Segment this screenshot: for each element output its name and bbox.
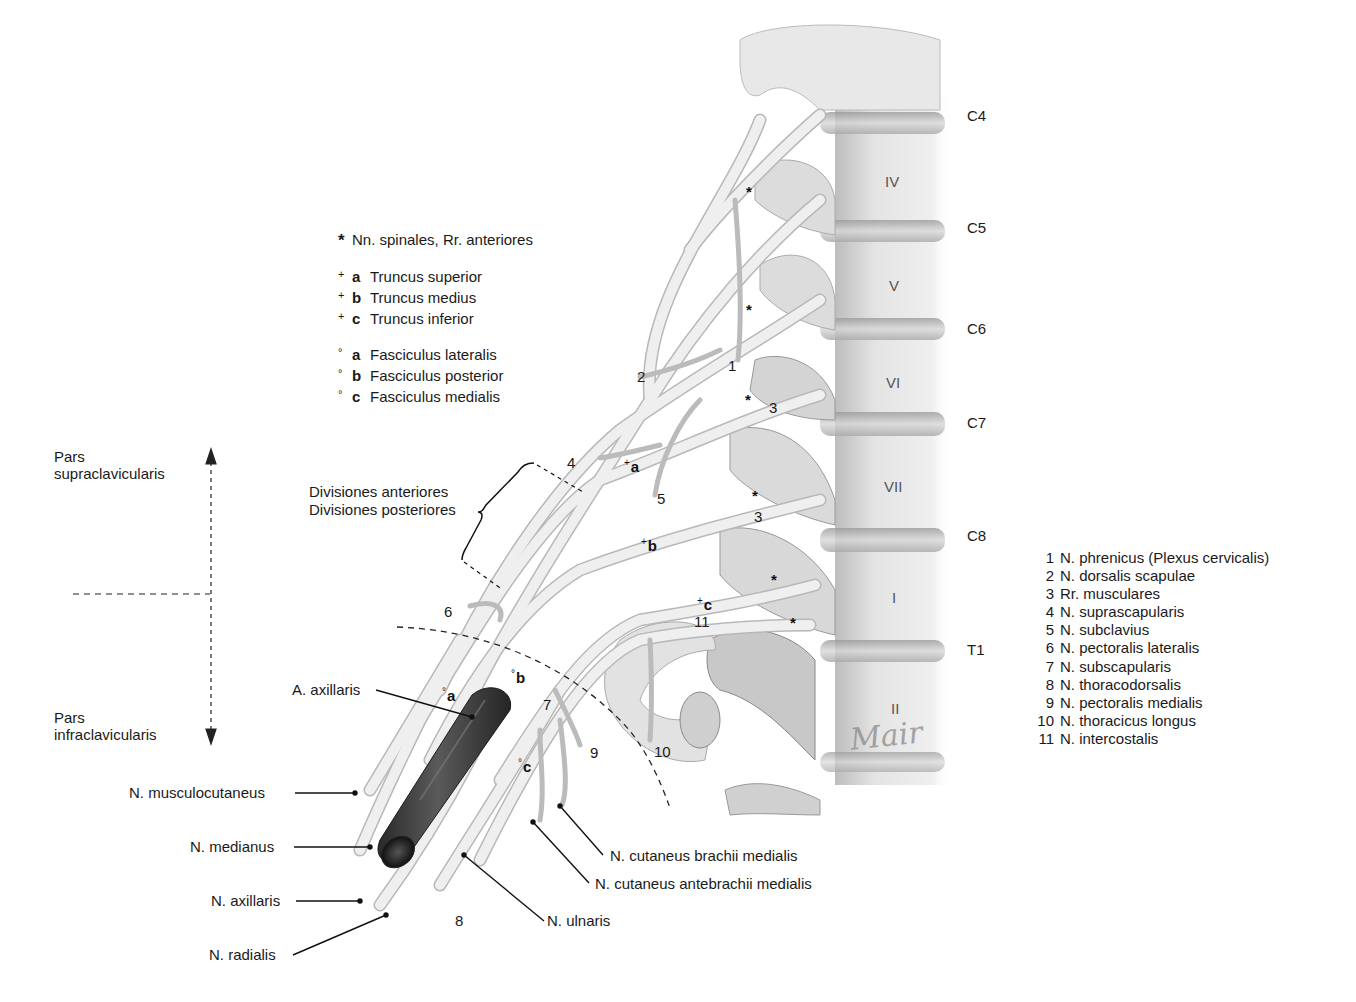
degree-icon: ° — [338, 343, 352, 361]
asterisk-icon: * — [752, 487, 758, 505]
legend-item: 7N. subscapularis — [1034, 658, 1269, 676]
label-n-axillaris: N. axillaris — [211, 892, 280, 910]
vertebra-label: I — [892, 589, 896, 607]
cord-marker-c: °c — [518, 754, 531, 776]
degree-icon: ° — [338, 364, 352, 382]
label-n-medianus: N. medianus — [190, 838, 274, 856]
vertebra-label: II — [891, 700, 899, 718]
legend-trunk-a: +aTruncus superior — [338, 265, 533, 286]
degree-icon: ° — [338, 385, 352, 403]
asterisk-icon: * — [745, 391, 751, 409]
vertebra-label: V — [889, 277, 899, 295]
trunk-marker-b: +b — [641, 533, 657, 555]
legend-trunk-b: +bTruncus medius — [338, 286, 533, 307]
label-a-axillaris: A. axillaris — [292, 681, 360, 699]
asterisk-icon: * — [790, 614, 796, 632]
region-infraclavicular-label: Pars infraclavicularis — [54, 709, 157, 743]
nerve-number-8: 8 — [455, 912, 463, 930]
legend-item: 11N. intercostalis — [1034, 730, 1269, 748]
trunk-marker-c: +c — [697, 592, 712, 614]
nerve-number-5: 5 — [657, 490, 665, 508]
legend-cord-a: °aFasciculus lateralis — [338, 343, 533, 364]
plus-icon: + — [338, 286, 352, 304]
asterisk-icon: * — [771, 571, 777, 589]
nerve-number-4: 4 — [567, 454, 575, 472]
legend-item: 3Rr. musculares — [1034, 585, 1269, 603]
label-n-musculocutaneus: N. musculocutaneus — [129, 784, 265, 802]
vertebral-column — [605, 25, 950, 815]
segment-label-c8: C8 — [967, 527, 986, 545]
legend-item: 5N. subclavius — [1034, 621, 1269, 639]
vertebra-label: VII — [884, 478, 902, 496]
vertebra-label: VI — [886, 374, 900, 392]
legend-item: 9N. pectoralis medialis — [1034, 694, 1269, 712]
legend-item: 8N. thoracodorsalis — [1034, 676, 1269, 694]
trunk-marker-a: +a — [624, 454, 639, 476]
legend-item: 10N. thoracicus longus — [1034, 712, 1269, 730]
legend-item: 6N. pectoralis lateralis — [1034, 639, 1269, 657]
nerve-number-10: 10 — [654, 743, 671, 761]
nerve-number-3: 3 — [769, 399, 777, 417]
asterisk-icon: * — [746, 183, 752, 201]
nerve-number-11: 11 — [694, 613, 710, 631]
numbered-legend: 1N. phrenicus (Plexus cervicalis) 2N. do… — [1034, 549, 1269, 748]
segment-label-t1: T1 — [967, 641, 985, 659]
segment-label-c4: C4 — [967, 107, 986, 125]
nerve-number-6: 6 — [444, 603, 452, 621]
legend-cord-c: °cFasciculus medialis — [338, 385, 533, 406]
region-supraclavicular-label: Pars supraclavicularis — [54, 448, 165, 482]
segment-label-c7: C7 — [967, 414, 986, 432]
segment-label-c6: C6 — [967, 320, 986, 338]
legend-item: 2N. dorsalis scapulae — [1034, 567, 1269, 585]
symbol-legend: *Nn. spinales, Rr. anteriores +aTruncus … — [338, 231, 533, 406]
nerve-number-1: 1 — [728, 357, 736, 375]
plus-icon: + — [338, 307, 352, 325]
divisions-label: Divisiones anteriores Divisiones posteri… — [309, 483, 456, 519]
asterisk-icon: * — [746, 301, 752, 319]
asterisk-icon: * — [338, 232, 352, 250]
nerve-number-2: 2 — [637, 368, 645, 386]
nerve-number-7: 7 — [543, 696, 551, 714]
cord-marker-a: °a — [442, 683, 455, 705]
legend-trunk-c: +cTruncus inferior — [338, 307, 533, 328]
label-n-cutaneus-antebrachii-medialis: N. cutaneus antebrachii medialis — [595, 875, 812, 893]
legend-item: 1N. phrenicus (Plexus cervicalis) — [1034, 549, 1269, 567]
nerve-number-3: 3 — [754, 508, 762, 526]
plus-icon: + — [338, 265, 352, 283]
nerve-number-9: 9 — [590, 744, 598, 762]
label-n-ulnaris: N. ulnaris — [547, 912, 610, 930]
legend-cord-b: °bFasciculus posterior — [338, 364, 533, 385]
label-n-radialis: N. radialis — [209, 946, 276, 964]
segment-label-c5: C5 — [967, 219, 986, 237]
label-n-cutaneus-brachii-medialis: N. cutaneus brachii medialis — [610, 847, 798, 865]
legend-item: 4N. suprascapularis — [1034, 603, 1269, 621]
vertebra-label: IV — [885, 173, 899, 191]
cord-marker-b: °b — [511, 665, 525, 687]
region-indicator — [73, 449, 216, 744]
legend-star-row: *Nn. spinales, Rr. anteriores — [338, 231, 533, 250]
